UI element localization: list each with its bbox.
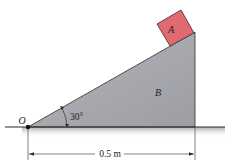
angle-label: 30° (70, 112, 84, 122)
dimension-label: 0.5 m (99, 149, 121, 159)
ground-shadow (22, 127, 225, 137)
pivot-label: O (18, 115, 25, 126)
dimension-arrow-right (189, 152, 194, 155)
wedge-block-diagram: A B O 30° 0.5 m (0, 0, 228, 168)
block-label: A (167, 24, 175, 35)
dimension-arrow-left (29, 152, 34, 155)
pivot-point-o (26, 125, 30, 129)
wedge-label: B (155, 87, 161, 98)
